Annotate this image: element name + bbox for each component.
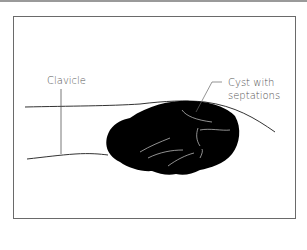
cyst-label-line1: Cyst with	[228, 76, 274, 89]
clavicle-lower-line	[27, 154, 108, 159]
illustration	[0, 0, 307, 250]
cyst-label-line2: septations	[228, 89, 280, 102]
clavicle-label: Clavicle	[47, 74, 86, 87]
cyst-mass	[106, 101, 239, 175]
